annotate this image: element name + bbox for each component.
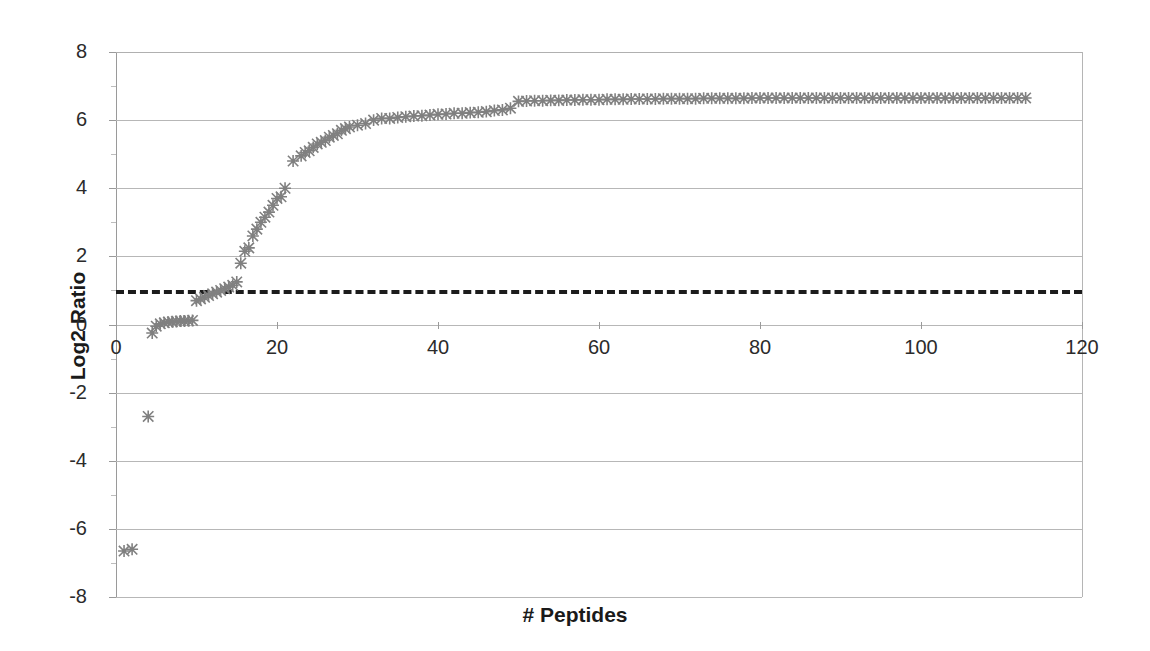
y-tick-label-8: 8 [27, 41, 87, 61]
y-tick-label-6: 6 [27, 109, 87, 129]
x-tick-60 [599, 322, 600, 329]
x-tick-20 [277, 322, 278, 329]
series-0 [118, 92, 1032, 557]
x-tick-label-40: 40 [403, 337, 473, 357]
x-axis-title: # Peptides [0, 603, 1150, 627]
data-point [142, 410, 154, 422]
y-tick-minor--5 [111, 495, 116, 496]
y-tick--4 [109, 461, 116, 462]
data-point [496, 104, 508, 116]
y-tick--2 [109, 393, 116, 394]
data-point [1020, 92, 1032, 104]
x-tick-label-0: 0 [81, 337, 151, 357]
y-tick-minor--7 [111, 563, 116, 564]
x-tick-label-80: 80 [725, 337, 795, 357]
x-tick-80 [760, 322, 761, 329]
y-tick-label--6: -6 [27, 518, 87, 538]
data-point [126, 543, 138, 555]
data-point [279, 182, 291, 194]
data-point [118, 545, 130, 557]
y-tick-label--4: -4 [27, 450, 87, 470]
x-tick-120 [1082, 322, 1083, 329]
data-point [231, 276, 243, 288]
chart-container: Log2 Ratio # Peptides -8-6-4-202468 0204… [0, 0, 1150, 651]
x-tick-100 [921, 322, 922, 329]
x-tick-label-100: 100 [886, 337, 956, 357]
data-point [343, 121, 355, 133]
y-tick-2 [109, 256, 116, 257]
data-point [368, 114, 380, 126]
y-tick-minor--3 [111, 427, 116, 428]
x-tick-label-20: 20 [242, 337, 312, 357]
x-tick-label-60: 60 [564, 337, 634, 357]
y-tick-6 [109, 120, 116, 121]
y-tick-minor-3 [111, 222, 116, 223]
data-point [186, 314, 198, 326]
y-tick-8 [109, 52, 116, 53]
data-point [243, 242, 255, 254]
data-point [235, 257, 247, 269]
y-tick-label-0: 0 [27, 314, 87, 334]
x-tick-0 [116, 322, 117, 329]
y-tick-minor-7 [111, 86, 116, 87]
y-tick-minor--1 [111, 359, 116, 360]
y-tick-label--8: -8 [27, 586, 87, 606]
y-tick--8 [109, 597, 116, 598]
y-tick-minor-1 [111, 290, 116, 291]
x-tick-40 [438, 322, 439, 329]
data-point [287, 155, 299, 167]
y-tick-0 [109, 325, 116, 326]
data-point [504, 102, 516, 114]
data-point [352, 119, 364, 131]
x-tick-label-120: 120 [1047, 337, 1117, 357]
y-tick-label--2: -2 [27, 382, 87, 402]
y-tick-4 [109, 188, 116, 189]
y-tick--6 [109, 529, 116, 530]
y-tick-label-2: 2 [27, 245, 87, 265]
gridline-y--8 [116, 597, 1082, 598]
y-tick-minor-5 [111, 154, 116, 155]
y-tick-label-4: 4 [27, 177, 87, 197]
